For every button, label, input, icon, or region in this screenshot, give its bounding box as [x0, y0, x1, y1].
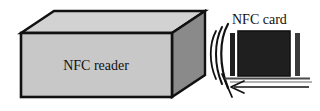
card-baselines [224, 79, 312, 83]
nfc-reader-box: NFC reader [21, 11, 205, 97]
nfc-diagram-canvas: NFC reader NFC card [0, 0, 320, 111]
nfc-reader-label: NFC reader [63, 58, 129, 73]
nfc-diagram: NFC reader NFC card [0, 0, 320, 111]
nfc-card-label: NFC card [232, 12, 287, 27]
nfc-card-right-bar [295, 33, 300, 76]
nfc-card-body [238, 31, 290, 76]
nfc-card: NFC card [230, 12, 300, 76]
nfc-card-left-bar [230, 33, 235, 76]
arrow-left-icon [231, 81, 309, 93]
